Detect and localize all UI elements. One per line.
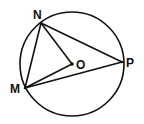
segment-mo [25,64,72,88]
segment-nm [25,23,41,88]
label-o: O [76,58,85,72]
vertex-n-dot [40,22,43,25]
vertex-m-dot [24,87,27,90]
label-p: P [126,56,134,70]
geometry-diagram: N M P O [0,0,144,124]
label-n: N [33,8,42,22]
vertex-p-dot [121,61,124,64]
center-point-o [70,62,74,66]
segment-mp [25,62,122,88]
segment-no [41,23,72,64]
label-m: M [10,82,20,96]
